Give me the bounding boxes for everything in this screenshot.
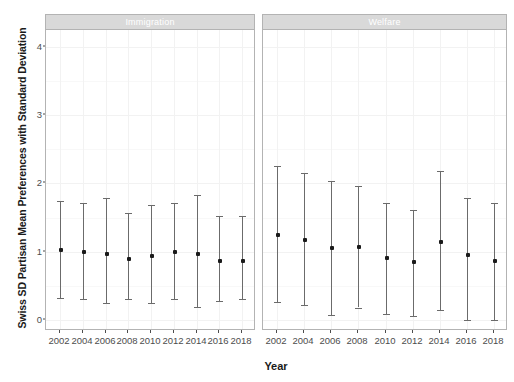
- gridline-horizontal-minor: [46, 149, 254, 150]
- error-bar-cap-lower: [274, 302, 281, 303]
- data-point: [276, 233, 280, 237]
- gridline-horizontal-major: [46, 183, 254, 184]
- panel-strip-immigration: Immigration: [46, 15, 254, 30]
- x-tick-label: 2002: [48, 335, 69, 346]
- gridline-horizontal-minor: [46, 81, 254, 82]
- x-tick-mark: [357, 330, 358, 333]
- y-tick-label: 2: [37, 177, 42, 188]
- error-bar: [106, 198, 107, 302]
- gridline-horizontal-major: [46, 47, 254, 48]
- x-tick-mark: [466, 330, 467, 333]
- data-point: [82, 250, 86, 254]
- x-tick-mark: [196, 330, 197, 333]
- error-bar-cap-upper: [216, 216, 223, 217]
- x-tick-label: 2016: [455, 335, 476, 346]
- error-bar-cap-lower: [57, 298, 64, 299]
- error-bar-cap-upper: [148, 205, 155, 206]
- error-bar-cap-lower: [410, 316, 417, 317]
- gridline-horizontal-major: [46, 252, 254, 253]
- x-tick-mark: [82, 330, 83, 333]
- error-bar-cap-upper: [410, 210, 417, 211]
- data-point: [150, 254, 154, 258]
- error-bar-cap-lower: [301, 305, 308, 306]
- error-bar-cap-lower: [125, 299, 132, 300]
- error-bar-cap-upper: [491, 203, 498, 204]
- error-bar-cap-lower: [437, 310, 444, 311]
- data-point: [439, 240, 443, 244]
- data-point: [59, 248, 63, 252]
- gridline-horizontal-minor: [46, 218, 254, 219]
- panel-strip-welfare: Welfare: [263, 15, 506, 30]
- y-tick-label: 1: [37, 245, 42, 256]
- x-tick-mark: [105, 330, 106, 333]
- error-bar-cap-lower: [239, 299, 246, 300]
- x-tick-mark: [439, 330, 440, 333]
- error-bar-cap-lower: [103, 303, 110, 304]
- y-tick-label: 4: [37, 41, 42, 52]
- error-bar-cap-lower: [491, 320, 498, 321]
- gridline-horizontal-minor: [263, 81, 506, 82]
- error-bar-cap-upper: [239, 216, 246, 217]
- data-point: [466, 253, 470, 257]
- error-bar-cap-upper: [464, 198, 471, 199]
- gridline-horizontal-minor: [46, 286, 254, 287]
- error-bar-cap-upper: [383, 203, 390, 204]
- gridline-horizontal-major: [263, 252, 506, 253]
- data-point: [127, 257, 131, 261]
- error-bar-cap-upper: [103, 198, 110, 199]
- x-tick-label: 2012: [401, 335, 422, 346]
- x-tick-label: 2008: [116, 335, 137, 346]
- x-tick-label: 2004: [292, 335, 313, 346]
- x-axis-label: Year: [45, 360, 507, 372]
- x-tick-label: 2002: [265, 335, 286, 346]
- x-tick-label: 2010: [374, 335, 395, 346]
- error-bar-cap-lower: [148, 303, 155, 304]
- x-tick-mark: [493, 330, 494, 333]
- y-tick-label: 3: [37, 109, 42, 120]
- x-tick-mark: [173, 330, 174, 333]
- x-tick-label: 2014: [185, 335, 206, 346]
- x-tick-label: 2008: [346, 335, 367, 346]
- x-tick-label: 2018: [230, 335, 251, 346]
- error-bar: [242, 216, 243, 299]
- error-bar-cap-upper: [171, 203, 178, 204]
- x-tick-label: 2010: [139, 335, 160, 346]
- x-tick-mark: [412, 330, 413, 333]
- data-point: [357, 245, 361, 249]
- data-point: [303, 238, 307, 242]
- gridline-horizontal-major: [46, 320, 254, 321]
- x-tick-mark: [150, 330, 151, 333]
- error-bar: [197, 195, 198, 307]
- gridline-horizontal-major: [46, 115, 254, 116]
- gridline-horizontal-minor: [263, 218, 506, 219]
- error-bar-cap-lower: [355, 308, 362, 309]
- error-bar-cap-lower: [171, 299, 178, 300]
- data-point: [241, 259, 245, 263]
- error-bar-cap-upper: [194, 195, 201, 196]
- data-point: [218, 259, 222, 263]
- x-tick-mark: [330, 330, 331, 333]
- gridline-horizontal-minor: [263, 286, 506, 287]
- error-bar-cap-upper: [57, 201, 64, 202]
- x-tick-label: 2016: [207, 335, 228, 346]
- error-bar: [467, 198, 468, 319]
- x-tick-label: 2006: [319, 335, 340, 346]
- x-tick-mark: [59, 330, 60, 333]
- x-tick-label: 2006: [94, 335, 115, 346]
- data-point: [412, 260, 416, 264]
- gridline-horizontal-minor: [263, 149, 506, 150]
- x-tick-label: 2014: [428, 335, 449, 346]
- gridline-horizontal-major: [263, 115, 506, 116]
- gridline-horizontal-major: [263, 47, 506, 48]
- error-bar-cap-upper: [328, 181, 335, 182]
- error-bar-cap-lower: [383, 314, 390, 315]
- error-bar-cap-upper: [125, 213, 132, 214]
- gridline-horizontal-major: [263, 183, 506, 184]
- data-point: [385, 256, 389, 260]
- x-tick-mark: [218, 330, 219, 333]
- error-bar-cap-upper: [355, 186, 362, 187]
- panel-immigration: Immigration: [45, 14, 255, 330]
- y-axis: 01234: [22, 0, 42, 382]
- plot-area-immigration: [46, 30, 254, 329]
- data-point: [330, 246, 334, 250]
